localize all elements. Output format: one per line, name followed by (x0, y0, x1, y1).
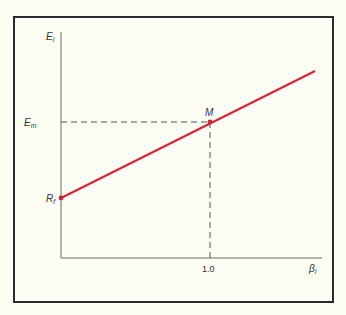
rf-point (59, 196, 64, 201)
market-point-label: M (205, 107, 214, 118)
security-market-line (61, 71, 315, 198)
x-axis-label: βi (308, 263, 317, 275)
y-axis-label: Ei (46, 31, 55, 43)
market-point (208, 120, 213, 125)
sml-diagram: Ei Em Rf M 1.0 βi (0, 0, 346, 315)
beta-one-tick-label: 1.0 (202, 264, 215, 274)
figure-frame (14, 17, 333, 302)
rf-label: Rf (46, 193, 56, 205)
em-label: Em (24, 117, 37, 129)
